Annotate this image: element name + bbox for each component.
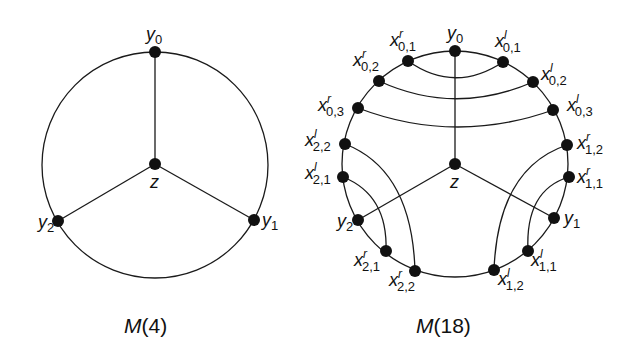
label-x03l: xl0,3 bbox=[566, 92, 593, 119]
label-x21l: xl2,1 bbox=[304, 160, 331, 187]
vertices-m4 bbox=[52, 46, 260, 227]
label-z: z bbox=[149, 172, 159, 192]
label-y1: y1 bbox=[260, 210, 278, 233]
vertex-x21r bbox=[380, 245, 392, 257]
vertex-y0 bbox=[449, 45, 461, 57]
label-x12r: xr1,2 bbox=[576, 130, 603, 157]
spoke-z-y1 bbox=[155, 164, 254, 220]
label-y0: y0 bbox=[445, 23, 463, 46]
label-y2: y2 bbox=[335, 211, 353, 234]
vertex-x03l bbox=[547, 104, 559, 116]
vertex-x21l bbox=[337, 171, 349, 183]
label-x01r: xr0,1 bbox=[389, 27, 416, 54]
label-x11r: xr1,1 bbox=[576, 164, 603, 191]
spoke-z-y2 bbox=[358, 164, 455, 220]
vertex-y1 bbox=[248, 214, 260, 226]
label-x11l: xl1,1 bbox=[530, 247, 557, 274]
caption-m18: M(18) bbox=[416, 314, 471, 337]
vertex-x03r bbox=[352, 102, 364, 114]
label-x12l: xl1,2 bbox=[497, 266, 524, 293]
vertex-x02l bbox=[527, 76, 539, 88]
label-y1: y1 bbox=[562, 208, 580, 231]
vertex-x11r bbox=[563, 171, 575, 183]
vertex-z bbox=[149, 158, 161, 170]
label-y0: y0 bbox=[144, 24, 162, 47]
label-x01l: xl0,1 bbox=[494, 28, 521, 55]
vertex-x02r bbox=[373, 75, 385, 87]
vertex-y2 bbox=[352, 214, 364, 226]
spoke-z-y2 bbox=[58, 164, 155, 221]
label-z: z bbox=[449, 172, 459, 192]
chord-x02 bbox=[379, 81, 533, 99]
chord-x11 bbox=[528, 177, 569, 251]
chord-x21 bbox=[343, 177, 386, 251]
label-x22l: xl2,2 bbox=[304, 127, 331, 154]
label-x02r: xr0,2 bbox=[352, 47, 379, 74]
vertex-x22r bbox=[409, 265, 421, 277]
vertex-x01r bbox=[402, 55, 414, 67]
vertex-x01l bbox=[497, 56, 509, 68]
labels-m4: y0 z y1 y2 M(4) bbox=[36, 24, 278, 337]
graph-figure: y0 z y1 y2 M(4) bbox=[0, 0, 639, 354]
vertex-y1 bbox=[548, 212, 560, 224]
label-x02l: xl0,2 bbox=[540, 61, 567, 88]
vertex-x12r bbox=[561, 139, 573, 151]
label-y2: y2 bbox=[36, 212, 54, 235]
vertex-y0 bbox=[149, 46, 161, 58]
caption-m4: M(4) bbox=[124, 314, 167, 337]
label-x03r: xr0,3 bbox=[317, 92, 344, 119]
vertex-z bbox=[449, 158, 461, 170]
vertex-x22l bbox=[339, 138, 351, 150]
label-x21r: xr2,1 bbox=[353, 247, 380, 274]
